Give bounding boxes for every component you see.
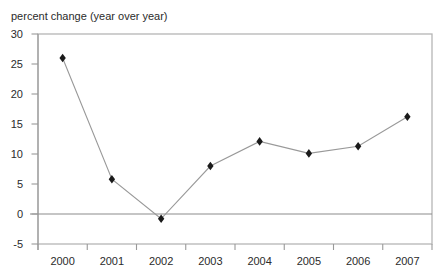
x-axis-tick-label: 2000 bbox=[50, 255, 74, 267]
data-series-line bbox=[63, 58, 408, 219]
diamond-marker bbox=[306, 149, 312, 158]
diamond-marker bbox=[59, 54, 65, 63]
y-axis-tick-label: 5 bbox=[17, 178, 23, 190]
chart-canvas: percent change (year over year) 30252015… bbox=[0, 0, 440, 273]
y-axis-tick-label: 0 bbox=[17, 208, 23, 220]
chart-figure: percent change (year over year) 30252015… bbox=[0, 0, 440, 273]
x-axis-tick-label: 2001 bbox=[100, 255, 124, 267]
y-axis-tick-label: 10 bbox=[11, 148, 23, 160]
x-axis-tick-label: 2003 bbox=[198, 255, 222, 267]
x-axis-labels: 20002001200220032004200520062007 bbox=[50, 255, 419, 267]
diamond-marker bbox=[109, 175, 115, 184]
x-axis-tick-label: 2007 bbox=[395, 255, 419, 267]
y-axis-tick-label: 30 bbox=[11, 28, 23, 40]
plot-frame bbox=[38, 34, 432, 244]
y-axis-ticks bbox=[32, 34, 39, 244]
diamond-marker bbox=[404, 113, 410, 122]
y-axis-tick-label: 15 bbox=[11, 118, 23, 130]
y-axis-tick-label: 25 bbox=[11, 58, 23, 70]
data-point-markers bbox=[59, 54, 410, 223]
y-axis-tick-label: -5 bbox=[13, 238, 23, 250]
x-axis-tick-label: 2004 bbox=[247, 255, 271, 267]
chart-title: percent change (year over year) bbox=[11, 10, 168, 22]
x-axis-tick-label: 2002 bbox=[149, 255, 173, 267]
x-axis-tick-label: 2006 bbox=[346, 255, 370, 267]
x-axis-ticks bbox=[38, 244, 432, 250]
y-axis-tick-label: 20 bbox=[11, 88, 23, 100]
x-axis-tick-label: 2005 bbox=[297, 255, 321, 267]
diamond-marker bbox=[355, 142, 361, 151]
diamond-marker bbox=[256, 137, 262, 146]
y-axis-labels: 302520151050-5 bbox=[11, 28, 23, 250]
